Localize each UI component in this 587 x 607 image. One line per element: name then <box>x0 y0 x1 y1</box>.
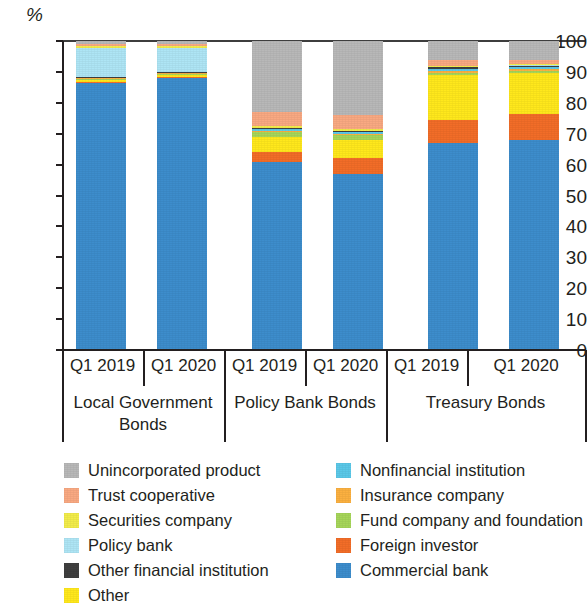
y-axis-tick <box>56 287 63 289</box>
texture-overlay <box>64 463 79 478</box>
texture-overlay <box>336 563 351 578</box>
bar-segment <box>509 140 559 350</box>
bar-segment <box>252 152 302 161</box>
texture-overlay <box>64 488 79 503</box>
x-axis-group-label: Treasury Bonds <box>386 392 585 414</box>
bar-segment <box>509 41 559 60</box>
legend-item: Fund company and foundation <box>336 508 586 533</box>
legend-label: Nonfinancial institution <box>360 462 525 479</box>
y-axis-tick <box>56 256 63 258</box>
legend-label: Unincorporated product <box>88 462 260 479</box>
legend-item: Trust cooperative <box>64 483 329 508</box>
legend-swatch-icon <box>336 538 351 553</box>
texture-overlay <box>336 463 351 478</box>
legend-label: Trust cooperative <box>88 487 215 504</box>
bar-segment <box>333 140 383 159</box>
legend-item: Other <box>64 583 329 607</box>
y-axis-tick <box>56 133 63 135</box>
legend-label: Commercial bank <box>360 562 488 579</box>
y-axis-tick <box>56 40 63 42</box>
x-axis-period-label: Q1 2020 <box>305 356 386 376</box>
legend-swatch-icon <box>64 463 79 478</box>
bar-segment <box>252 41 302 112</box>
texture-overlay <box>64 538 79 553</box>
bar-segment <box>76 83 126 350</box>
y-axis-tick <box>56 195 63 197</box>
stacked-bar <box>76 41 126 350</box>
bar-segment <box>157 48 207 73</box>
bar-segment <box>333 174 383 350</box>
bar-segment <box>428 120 478 143</box>
bar-segment <box>252 112 302 126</box>
legend-item: Other financial institution <box>64 558 329 583</box>
stacked-bar <box>428 41 478 350</box>
y-axis-tick <box>56 164 63 166</box>
legend-column-right: Nonfinancial institutionInsurance compan… <box>336 458 586 583</box>
x-axis-period-label: Q1 2019 <box>224 356 305 376</box>
legend-swatch-icon <box>64 488 79 503</box>
legend-swatch-icon <box>336 488 351 503</box>
y-axis-unit-label: % <box>26 4 43 26</box>
x-axis-period-label: Q1 2020 <box>143 356 224 376</box>
bar-segment <box>428 75 478 120</box>
stacked-bar <box>252 41 302 350</box>
y-axis-tick <box>56 318 63 320</box>
bar-segment <box>428 41 478 60</box>
legend-label: Other <box>88 587 129 604</box>
x-axis-period-label: Q1 2019 <box>62 356 143 376</box>
legend-column-left: Unincorporated productTrust cooperativeS… <box>64 458 329 607</box>
x-axis-period-label: Q1 2020 <box>467 356 585 376</box>
bar-segment <box>333 115 383 129</box>
legend-item: Policy bank <box>64 533 329 558</box>
bar-segment <box>509 114 559 140</box>
plot-top-rule <box>62 40 585 42</box>
y-axis-tick <box>56 71 63 73</box>
legend-swatch-icon <box>336 513 351 528</box>
legend-item: Nonfinancial institution <box>336 458 586 483</box>
legend-swatch-icon <box>336 563 351 578</box>
texture-overlay <box>336 513 351 528</box>
x-axis-group-label: Local Government Bonds <box>62 392 224 437</box>
legend-item: Foreign investor <box>336 533 586 558</box>
legend-label: Foreign investor <box>360 537 478 554</box>
y-axis-tick <box>56 225 63 227</box>
legend-item: Insurance company <box>336 483 586 508</box>
legend-swatch-icon <box>64 513 79 528</box>
texture-overlay <box>64 513 79 528</box>
stacked-bar <box>509 41 559 350</box>
y-axis-tick <box>56 102 63 104</box>
legend-item: Securities company <box>64 508 329 533</box>
bar-segment <box>157 78 207 350</box>
legend-label: Securities company <box>88 512 232 529</box>
texture-overlay <box>336 538 351 553</box>
legend-swatch-icon <box>64 538 79 553</box>
stacked-bar <box>157 41 207 350</box>
texture-overlay <box>64 563 79 578</box>
legend-label: Other financial institution <box>88 562 269 579</box>
bar-segment <box>333 41 383 115</box>
bar-segment <box>333 158 383 173</box>
bar-segment <box>428 143 478 350</box>
x-axis-group-label: Policy Bank Bonds <box>224 392 386 414</box>
x-axis-period-label: Q1 2019 <box>386 356 467 376</box>
legend-label: Policy bank <box>88 537 172 554</box>
texture-overlay <box>336 488 351 503</box>
bar-segment <box>252 162 302 350</box>
legend-label: Insurance company <box>360 487 504 504</box>
bar-segment <box>252 137 302 152</box>
legend-swatch-icon <box>336 463 351 478</box>
legend-label: Fund company and foundation <box>360 512 583 529</box>
legend-item: Commercial bank <box>336 558 586 583</box>
legend-swatch-icon <box>64 563 79 578</box>
legend-swatch-icon <box>64 588 79 603</box>
bar-segment <box>76 48 126 77</box>
stacked-bar <box>333 41 383 350</box>
texture-overlay <box>64 588 79 603</box>
bar-segment <box>509 73 559 113</box>
x-axis-baseline <box>62 349 585 351</box>
legend-item: Unincorporated product <box>64 458 329 483</box>
